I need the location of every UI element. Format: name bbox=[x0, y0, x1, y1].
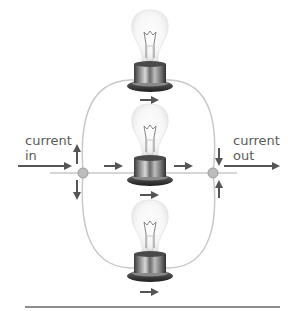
parallel-circuit-diagram: current in current out bbox=[0, 0, 288, 311]
label-current-in: current in bbox=[25, 133, 72, 163]
junction-left bbox=[78, 168, 88, 178]
bulb-bottom bbox=[127, 200, 173, 282]
junction-right bbox=[208, 168, 218, 178]
label-current-out: current out bbox=[233, 133, 280, 163]
